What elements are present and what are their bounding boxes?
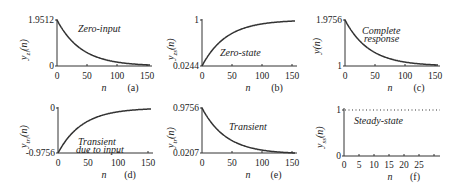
panel-b-xtick: 100 [255, 71, 270, 81]
panel-f-xlabel: n [388, 171, 393, 182]
panel-e-xtick: 0 [200, 158, 205, 168]
panel-c-xlabel: n [388, 82, 393, 93]
panel-a-ytick-bottom: 0 [49, 61, 54, 71]
panel-e-xtick: 150 [285, 158, 300, 168]
panel-a-xtick: 100 [110, 71, 125, 81]
panel-c-ylabel: y(n) [311, 37, 323, 55]
panel-d-xlabel: n [102, 169, 107, 180]
panel-a-xtick: 50 [82, 71, 92, 81]
panel-a-xtick: 0 [55, 71, 60, 81]
panel-a-ytick-top: 1.9512 [28, 15, 54, 25]
panel-e-ylabel: ytr(n) [165, 127, 179, 149]
panel-a-annotation: Zero-input [78, 23, 121, 34]
panel-c-caption: (c) [413, 82, 424, 94]
panel-f-caption: (f) [410, 171, 420, 183]
panel-b-xlabel: n [246, 82, 251, 93]
panel-b-xtick: 0 [200, 71, 205, 81]
panel-f-xtick: 20 [399, 160, 409, 170]
panel-b-curve [202, 21, 295, 66]
panel-f-ytick-top: 1 [336, 105, 341, 115]
panel-c-xtick: 100 [398, 71, 413, 81]
panel-d-caption: (d) [124, 169, 136, 181]
svg-text:yss(n): yss(n) [314, 126, 328, 149]
panel-b-ylabel: yzs(n) [165, 38, 179, 61]
panel-d-xtick: 0 [56, 158, 61, 168]
panel-e-caption: (e) [270, 169, 281, 181]
panel-c-xtick: 150 [428, 71, 443, 81]
panel-b-xtick: 150 [285, 71, 300, 81]
panel-c: 1.9756 1 0 50 100 150 n (c) Complete res… [311, 15, 442, 94]
panel-d: 0 -0.9756 0 50 100 150 n (d) Transient d… [18, 103, 155, 181]
panel-e-annotation: Transient [229, 121, 267, 132]
panel-c-ytick-top: 1.9756 [316, 15, 342, 25]
panel-d-ylabel: ytri(n) [18, 125, 32, 149]
svg-text:yzs(n): yzs(n) [165, 38, 179, 61]
panel-f: 1 0 0 5 10 15 20 25 n (f) Steady-state y… [314, 105, 440, 183]
svg-text:yzi(n): yzi(n) [18, 39, 32, 61]
svg-text:ytr(n): ytr(n) [165, 127, 179, 149]
panel-f-annotation: Steady-state [354, 115, 403, 126]
panel-d-ytick-top: 0 [50, 103, 55, 113]
panel-f-xtick: 25 [414, 160, 424, 170]
panel-b: 1 0.0244 0 50 100 150 n (b) Zero-state y… [165, 15, 299, 94]
panel-e-xlabel: n [246, 169, 251, 180]
panel-b-ytick-top: 1 [194, 15, 199, 25]
panel-f-xtick: 5 [357, 160, 362, 170]
panel-a-xlabel: n [102, 82, 107, 93]
panel-a: 1.9512 0 0 50 100 150 n (a) Zero-input y… [18, 15, 154, 94]
panel-a-caption: (a) [127, 82, 138, 94]
panel-d-xtick: 150 [141, 158, 156, 168]
panel-c-annotation-line2: response [364, 33, 400, 44]
panel-c-ytick-bottom: 1 [337, 61, 342, 71]
panel-a-xtick: 150 [140, 71, 155, 81]
panel-b-xtick: 50 [227, 71, 237, 81]
panel-f-xtick: 10 [369, 160, 379, 170]
panel-e-ytick-bottom: 0.0207 [173, 148, 199, 158]
panel-b-caption: (b) [271, 82, 283, 94]
panel-d-annotation-line2: due to input [76, 144, 124, 155]
panel-e: 0.9756 0.0207 0 50 100 150 n (e) Transie… [165, 103, 299, 181]
panel-b-annotation: Zero-state [220, 47, 261, 58]
panel-c-xtick: 50 [370, 71, 380, 81]
panel-f-xtick: 15 [384, 160, 394, 170]
panel-e-xtick: 50 [227, 158, 237, 168]
svg-text:ytri(n): ytri(n) [18, 125, 32, 149]
figure-panels: 1.9512 0 0 50 100 150 n (a) Zero-input y… [0, 0, 457, 188]
panel-d-xtick: 100 [111, 158, 126, 168]
panel-c-xtick: 0 [343, 71, 348, 81]
svg-text:y(n): y(n) [311, 37, 323, 55]
panel-e-xtick: 100 [255, 158, 270, 168]
panel-f-xtick: 0 [342, 160, 347, 170]
panel-a-ylabel: yzi(n) [18, 39, 32, 61]
panel-f-ylabel: yss(n) [314, 126, 328, 149]
panel-d-ytick-bottom: -0.9756 [26, 148, 56, 158]
panel-f-ytick-bottom: 0 [336, 151, 341, 161]
panel-b-ytick-bottom: 0.0244 [173, 61, 199, 71]
panel-e-ytick-top: 0.9756 [173, 103, 199, 113]
panel-d-xtick: 50 [83, 158, 93, 168]
